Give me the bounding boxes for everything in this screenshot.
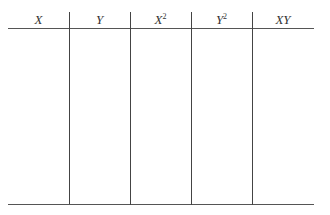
worksheet-table: X Y X2 Y2 XY [0, 0, 330, 215]
column-header-label: XY [275, 12, 290, 27]
column-divider [69, 12, 70, 204]
column-header-sup: 2 [162, 12, 166, 21]
column-divider [252, 12, 253, 205]
column-divider [191, 12, 192, 205]
column-divider [130, 12, 131, 205]
bottom-rule [8, 204, 314, 205]
column-header-label: X [35, 12, 43, 27]
column-header-label: Y [96, 12, 103, 27]
column-header-xy: XY [252, 9, 314, 25]
header-rule [8, 28, 314, 29]
column-header-x-squared: X2 [130, 9, 191, 25]
column-header-y: Y [69, 9, 130, 25]
column-header-x: X [8, 9, 69, 25]
column-header-sup: 2 [223, 12, 227, 21]
column-header-y-squared: Y2 [191, 9, 252, 25]
